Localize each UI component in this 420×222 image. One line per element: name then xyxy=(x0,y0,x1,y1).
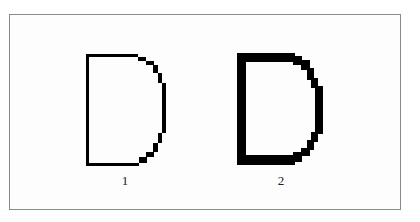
panel-label-1: 1 xyxy=(115,173,135,189)
panel-label-2: 2 xyxy=(271,173,291,189)
letter-d-thick xyxy=(237,53,323,165)
letter-d-thin xyxy=(86,54,166,166)
letter-d-figures xyxy=(0,0,420,222)
